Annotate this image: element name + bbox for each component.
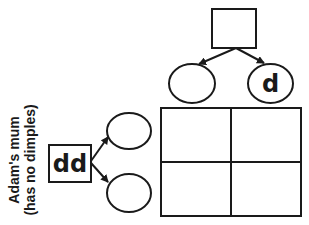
mother-label: Adam's mum (has no dimples) xyxy=(6,104,38,215)
grid-cell-r2c2[interactable] xyxy=(232,163,300,215)
father-arrow-left xyxy=(199,48,236,64)
father-gamete-1-text xyxy=(169,64,215,103)
mother-gamete-1-text xyxy=(107,113,151,149)
father-arrow-right xyxy=(236,48,264,63)
mother-arrow-down xyxy=(91,163,108,182)
mother-label-line2: (has no dimples) xyxy=(22,104,38,215)
grid-cell-r2c1[interactable] xyxy=(162,163,230,215)
grid-cell-r1c1[interactable] xyxy=(162,109,230,161)
father-genotype-text xyxy=(212,9,256,48)
mother-label-line1: Adam's mum xyxy=(6,104,22,215)
father-gamete-2-text: d xyxy=(248,64,293,103)
mother-arrow-up xyxy=(91,137,108,161)
grid-cell-r1c2[interactable] xyxy=(232,109,300,161)
mother-gamete-2-text xyxy=(107,174,151,212)
mother-genotype-text: dd xyxy=(49,145,91,182)
